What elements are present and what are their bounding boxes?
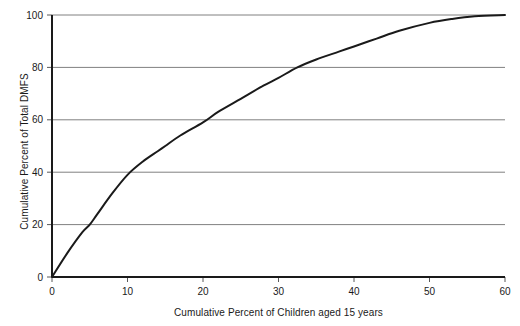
y-tick-label-60: 60 bbox=[32, 114, 44, 125]
x-tick-label-0: 0 bbox=[49, 286, 55, 297]
gridlines-group bbox=[52, 15, 505, 225]
x-tick-label-20: 20 bbox=[197, 286, 209, 297]
y-tick-label-0: 0 bbox=[37, 272, 43, 283]
y-axis-title: Cumulative Percent of Total DMFS bbox=[19, 32, 30, 272]
chart-container: 020406080100 0102030405060 Cumulative Pe… bbox=[0, 0, 520, 326]
x-axis-ticks-group: 0102030405060 bbox=[49, 277, 511, 297]
x-axis-title: Cumulative Percent of Children aged 15 y… bbox=[52, 307, 505, 318]
y-tick-label-100: 100 bbox=[26, 10, 43, 21]
y-axis-ticks-group: 020406080100 bbox=[26, 10, 52, 283]
cumulative-dmfs-line-chart: 020406080100 0102030405060 bbox=[0, 0, 520, 326]
x-tick-label-50: 50 bbox=[424, 286, 436, 297]
y-tick-label-40: 40 bbox=[32, 167, 44, 178]
data-series-line bbox=[52, 15, 505, 277]
y-tick-label-80: 80 bbox=[32, 62, 44, 73]
x-tick-label-30: 30 bbox=[273, 286, 285, 297]
y-tick-label-20: 20 bbox=[32, 219, 44, 230]
x-tick-label-10: 10 bbox=[122, 286, 134, 297]
x-tick-label-60: 60 bbox=[499, 286, 511, 297]
x-tick-label-40: 40 bbox=[348, 286, 360, 297]
